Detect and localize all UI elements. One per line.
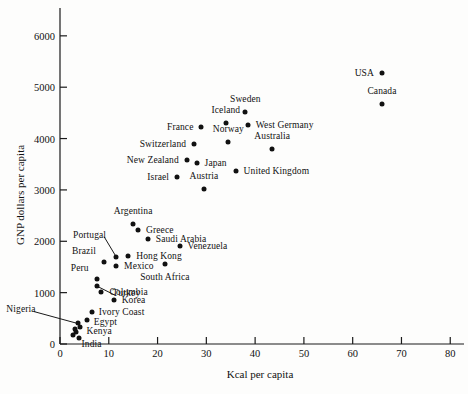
x-tick-label-30: 30 bbox=[201, 348, 212, 359]
x-axis-title: Kcal per capita bbox=[227, 368, 294, 380]
x-tick-label-10: 10 bbox=[104, 348, 115, 359]
scatter-chart: USACanadaSwedenIcelandWest GermanyFrance… bbox=[0, 0, 468, 394]
x-tick-label-0: 0 bbox=[57, 348, 62, 359]
y-tick-label-3000: 3000 bbox=[34, 184, 55, 195]
x-tick-label-50: 50 bbox=[299, 348, 310, 359]
y-tick-label-5000: 5000 bbox=[34, 82, 55, 93]
y-tick-label-1000: 1000 bbox=[34, 287, 55, 298]
y-axis-title: GNP dollars per capita bbox=[14, 145, 26, 245]
x-tick-label-60: 60 bbox=[347, 348, 358, 359]
x-tick-label-40: 40 bbox=[250, 348, 261, 359]
y-tick-label-2000: 2000 bbox=[34, 236, 55, 247]
y-tick-label-4000: 4000 bbox=[34, 133, 55, 144]
x-tick-label-20: 20 bbox=[152, 348, 163, 359]
x-tick-label-80: 80 bbox=[445, 348, 456, 359]
x-tick-label-70: 70 bbox=[396, 348, 407, 359]
y-tick-label-0: 0 bbox=[50, 339, 55, 350]
tick-label-layer: 0100020003000400050006000010203040506070… bbox=[0, 0, 468, 394]
y-tick-label-6000: 6000 bbox=[34, 30, 55, 41]
